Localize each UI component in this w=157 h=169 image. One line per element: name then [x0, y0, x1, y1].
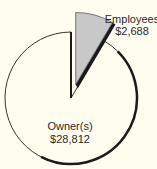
value-owners: $28,812: [50, 133, 90, 145]
pie-chart: Employees $2,688 Owner(s) $28,812: [0, 0, 157, 169]
label-employees: Employees: [105, 13, 157, 25]
label-owners: Owner(s): [47, 120, 92, 132]
value-employees: $2,688: [115, 25, 149, 37]
